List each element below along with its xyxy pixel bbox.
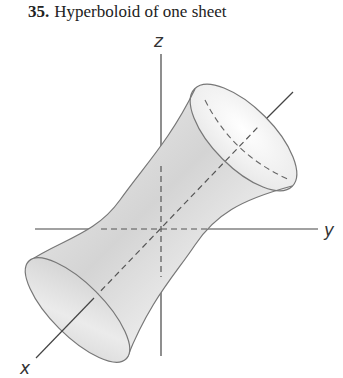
x-axis-bottom (36, 328, 65, 358)
hyperboloid-figure: z y x (0, 0, 343, 378)
x-axis-label: x (19, 358, 31, 378)
y-axis-label: y (323, 220, 335, 240)
z-axis-label: z (153, 31, 164, 51)
